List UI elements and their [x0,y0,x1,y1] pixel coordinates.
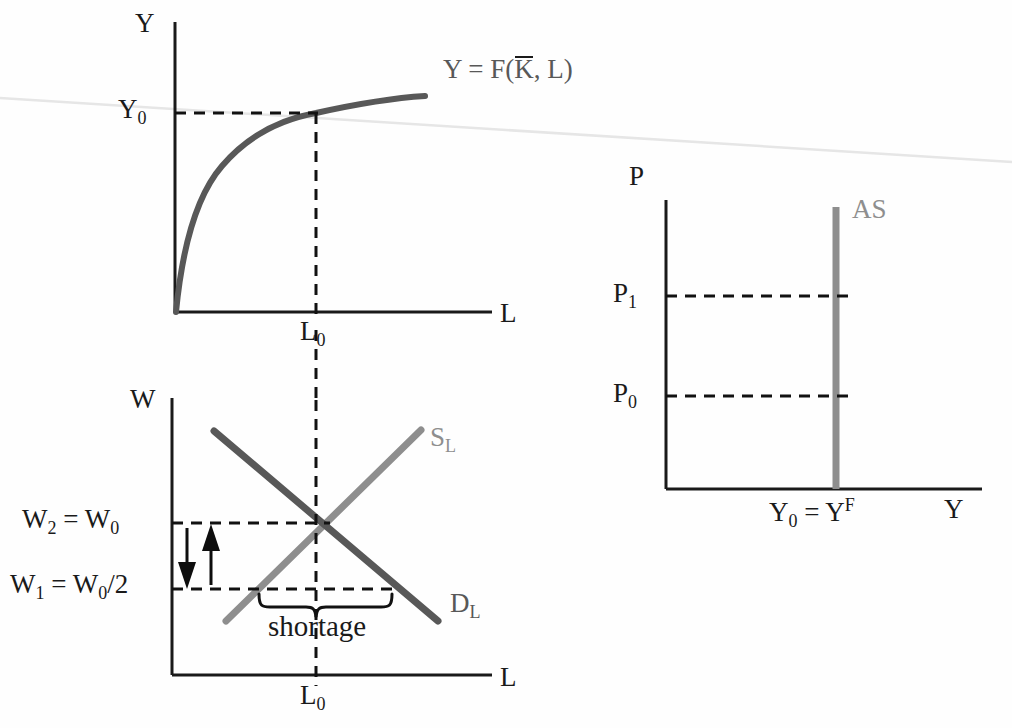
wage-high-label: W2 = W0 [22,506,119,537]
production-function-curve-label: Y = F(K, L) [443,54,573,83]
aggregate-supply-axes [666,200,982,489]
labor-w-axis-label: W [130,386,155,413]
wage-rise-arrow-icon [202,524,220,585]
economics-figure-svg [0,0,1012,728]
production-l0-tick-label: L0 [300,318,326,349]
production-x-axis-label: L [500,300,517,327]
labor-supply-curve-label: SL [430,424,456,455]
as-output-tick-label: Y0 = YF [769,496,855,530]
labor-demand-curve-label: DL [450,590,481,621]
as-x-axis-label: Y [944,496,964,523]
wage-low-label: W1 = W0/2 [10,571,128,602]
k-bar-overline: K [514,54,534,83]
as-p0-tick-label: P0 [613,380,637,411]
shortage-label: shortage [268,612,366,641]
as-p1-tick-label: P1 [613,280,637,311]
scan-artifact-line [0,98,1012,162]
labor-x-axis-label: L [500,664,517,691]
as-p-axis-label: P [629,163,644,190]
figure-canvas: Y Y0 L0 L Y = F(K, L) W W2 = W0 W1 = W0/… [0,0,1012,728]
production-y0-tick-label: Y0 [118,96,147,127]
aggregate-supply-curve-label: AS [852,196,887,223]
labor-demand-curve [214,431,438,621]
production-y-axis-label: Y [135,10,155,37]
wage-fall-arrow-icon [178,528,196,589]
labor-l0-tick-label: L0 [300,682,326,713]
production-function-curve [176,96,425,312]
